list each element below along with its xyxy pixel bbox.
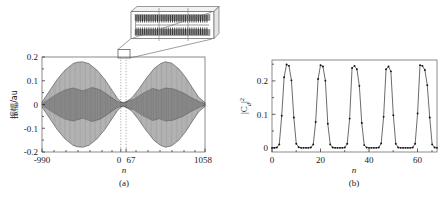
panel-a-inset — [131, 7, 219, 42]
panel-b-ylabel-sup: 2 — [238, 98, 245, 101]
panel-a-xtick-1: 0 — [117, 155, 122, 165]
panel-b-ylabel-base: |C — [239, 106, 249, 114]
panel-a-ytick-2: 0 — [34, 100, 39, 110]
panel-a-xtick-3: 1058 — [194, 155, 213, 165]
panel-b-xtick-0: 0 — [270, 155, 275, 165]
inset-top-face — [131, 7, 219, 12]
panel-b-xtick-1: 20 — [316, 155, 326, 165]
panel-b-ytick-2: 0.2 — [257, 76, 268, 86]
panel-a-xlabel: n — [122, 165, 127, 175]
panel-a-ytick-1: 0.1 — [27, 76, 38, 86]
figure-svg: 0.2 0.1 0 -0.1 -0.2 振幅/au — [0, 0, 445, 199]
panel-a-ytick-3: -0.1 — [24, 124, 38, 134]
panel-b-xtick-3: 60 — [413, 155, 423, 165]
panel-b-xlabel: n — [352, 165, 357, 175]
panel-a-xtick-2: 67 — [127, 155, 137, 165]
panel-b-xtick-2: 40 — [365, 155, 375, 165]
panel-b-ytick-0: 0 — [264, 143, 269, 153]
panel-a-label: (a) — [119, 178, 129, 188]
panel-a-xtick-0: -990 — [34, 155, 51, 165]
panel-b-label: (b) — [349, 178, 360, 188]
panel-a-ylabel: 振幅/au — [9, 90, 19, 119]
panel-b-ytick-1: 0.1 — [257, 110, 268, 120]
panel-a-ytick-0: 0.2 — [27, 52, 38, 62]
figure-container: 0.2 0.1 0 -0.1 -0.2 振幅/au — [0, 0, 445, 199]
inset-right-face — [214, 7, 219, 39]
